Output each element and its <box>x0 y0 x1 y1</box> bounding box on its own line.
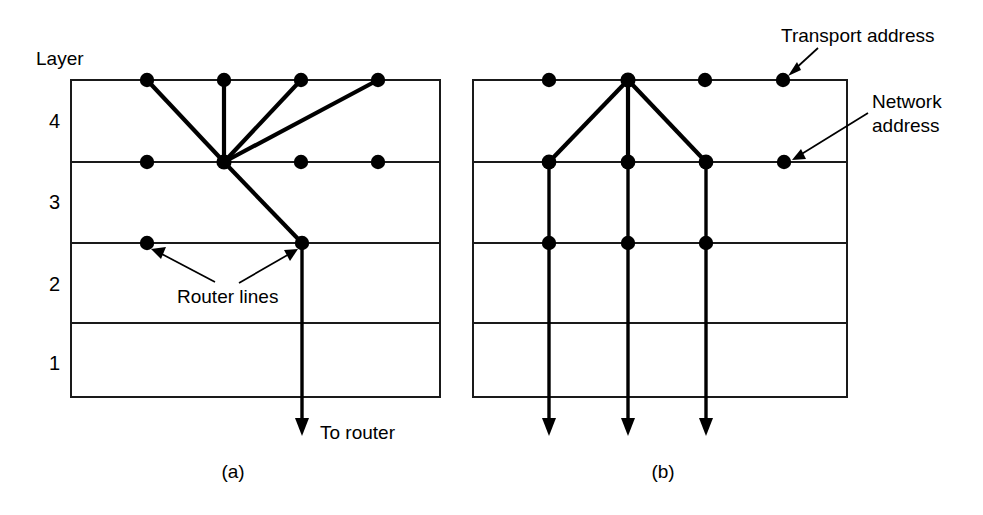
panel-b-link-t2-n3 <box>628 80 706 162</box>
network-address-label-line1: Network <box>872 91 942 112</box>
layer-address-diagram: Layer 4 3 2 1 Router lines To router Tra… <box>0 0 983 515</box>
panel-b-exit-arrowhead-3 <box>699 418 713 436</box>
panel-a-transport-dot-3 <box>294 73 308 87</box>
transport-address-callout <box>788 48 818 76</box>
panel-b-link-t2-n1 <box>549 80 628 162</box>
to-router-label: To router <box>320 422 396 443</box>
panel-a-network-dot-2 <box>216 154 231 169</box>
panel-b-transport-dot-1 <box>542 73 556 87</box>
panel-a-datalink-dot-2 <box>295 236 309 250</box>
panel-b-box <box>473 80 847 397</box>
panel-a-datalink-dot-1 <box>140 236 154 250</box>
panel-b-transport-dot-3 <box>698 73 712 87</box>
panel-b-datalink-dot-2 <box>621 236 635 250</box>
diagram-labels: Layer 4 3 2 1 Router lines To router Tra… <box>36 25 942 482</box>
transport-address-label: Transport address <box>781 25 934 46</box>
panel-a-link-t4-n2 <box>224 80 378 162</box>
network-address-arrowhead <box>792 149 806 160</box>
panel-a-link-t3-n2 <box>224 80 301 162</box>
network-address-leader <box>800 113 868 155</box>
figure-container: Layer 4 3 2 1 Router lines To router Tra… <box>0 0 983 515</box>
panel-b-network-dot-3 <box>699 155 714 170</box>
panel-b-exit-arrowhead-2 <box>621 418 635 436</box>
caption-b: (b) <box>651 461 674 482</box>
panel-a-transport-dot-4 <box>371 73 385 87</box>
layer-axis-label: Layer <box>36 48 84 69</box>
panel-b-transport-dot-2 <box>620 72 635 87</box>
panel-a <box>71 73 440 436</box>
panel-b-exit-arrowhead-1 <box>542 418 556 436</box>
panel-b-layer-grid <box>473 80 847 397</box>
panel-a-link-t1-n2 <box>147 80 224 162</box>
panel-b-transport-dot-4 <box>776 73 790 87</box>
caption-a: (a) <box>221 461 244 482</box>
panel-b-network-dot-1 <box>542 155 557 170</box>
transport-address-arrowhead <box>788 62 801 76</box>
panel-b-datalink-dot-3 <box>699 236 713 250</box>
panel-b-network-dot-4 <box>777 155 791 169</box>
router-lines-leader-right <box>239 253 291 283</box>
panel-a-network-dot-4 <box>371 155 385 169</box>
layer-number-2: 2 <box>49 273 60 295</box>
panel-a-network-dot-3 <box>294 155 308 169</box>
router-lines-leader-left <box>158 252 215 282</box>
panel-a-to-router-arrow <box>295 243 309 436</box>
panel-a-transport-dot-1 <box>140 73 154 87</box>
panel-b-datalink-dot-1 <box>542 236 556 250</box>
layer-number-4: 4 <box>49 110 60 132</box>
network-address-label-line2: address <box>872 115 940 136</box>
panel-b-network-dot-2 <box>621 155 636 170</box>
panel-a-transport-dot-2 <box>217 73 231 87</box>
router-lines-label: Router lines <box>177 286 278 307</box>
router-lines-arrowhead-left <box>151 247 166 259</box>
panel-a-network-dot-1 <box>140 155 154 169</box>
panel-b <box>473 48 868 436</box>
panel-a-exit-arrowhead <box>295 418 309 436</box>
layer-number-1: 1 <box>49 352 60 374</box>
panel-a-link-n2-d2 <box>224 162 302 243</box>
network-address-callout <box>792 113 868 160</box>
panel-b-router-lines <box>549 80 706 162</box>
panel-b-exit-arrows <box>542 162 713 436</box>
layer-number-3: 3 <box>49 191 60 213</box>
panel-a-router-lines-callout <box>151 247 298 283</box>
